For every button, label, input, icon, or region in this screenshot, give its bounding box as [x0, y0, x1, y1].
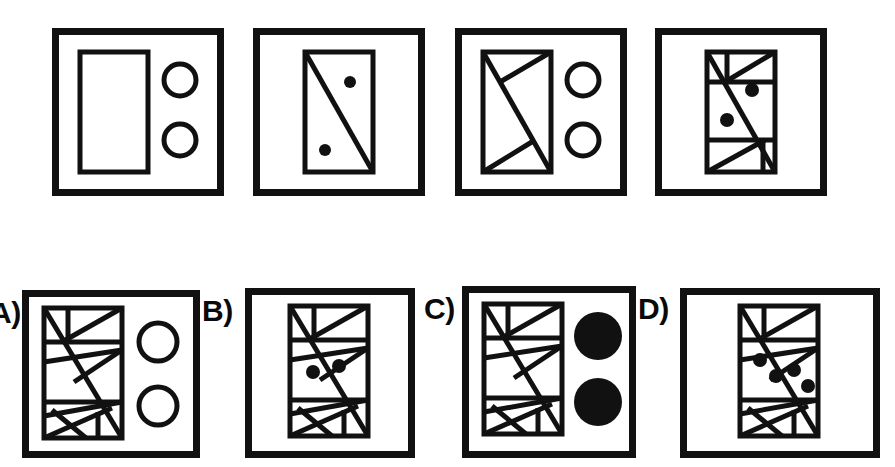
puzzle-canvas: A) B) [0, 0, 895, 467]
dot-2 [332, 359, 346, 373]
option-d-art [680, 288, 880, 458]
dot-1 [753, 353, 767, 367]
dot-2 [319, 144, 331, 156]
sequence-panel-3-art [455, 28, 627, 196]
option-d-label: D) [638, 294, 669, 324]
option-d[interactable] [680, 288, 880, 458]
dot-4 [801, 379, 815, 393]
sequence-panel-2-art [253, 28, 425, 196]
option-a-label: A) [0, 298, 21, 328]
sequence-panel-4-art [655, 28, 827, 196]
marker-circle-filled-2 [574, 378, 622, 426]
marker-circle-filled-1 [574, 312, 622, 360]
sequence-panel-2[interactable] [253, 28, 425, 196]
option-b-art [245, 288, 415, 458]
option-b[interactable] [245, 288, 415, 458]
dot-1 [306, 365, 320, 379]
dot-2 [720, 113, 734, 127]
sequence-panel-1[interactable] [52, 28, 224, 196]
sequence-panel-1-art [52, 28, 224, 196]
option-a[interactable] [22, 290, 200, 458]
option-a-art [22, 290, 200, 458]
option-c-label: C) [424, 294, 455, 324]
sequence-panel-3[interactable] [455, 28, 627, 196]
option-c[interactable] [462, 286, 636, 458]
option-b-label: B) [202, 296, 233, 326]
dot-1 [344, 76, 356, 88]
dot-3 [787, 363, 801, 377]
dot-1 [745, 83, 759, 97]
option-c-art [462, 286, 636, 458]
sequence-panel-4[interactable] [655, 28, 827, 196]
dot-2 [769, 369, 783, 383]
